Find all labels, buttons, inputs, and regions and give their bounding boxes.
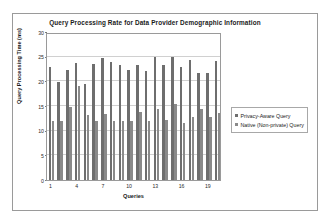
bar <box>157 109 159 180</box>
bar <box>52 121 54 180</box>
bar <box>122 121 124 180</box>
bar <box>104 114 106 180</box>
chart-figure: Query Processing Rate for Data Provider … <box>0 0 330 223</box>
bar <box>66 70 68 180</box>
bar <box>139 112 141 180</box>
bar <box>60 121 62 180</box>
legend-item: Native (Non-private) Query <box>235 120 304 129</box>
bar <box>218 113 220 180</box>
x-tick-label: 7 <box>101 183 104 189</box>
x-axis-ticks: 14710131619 <box>46 183 221 193</box>
bar <box>95 121 97 180</box>
bar <box>75 63 77 180</box>
bar <box>197 73 199 180</box>
y-tick-label: 15 <box>32 105 44 110</box>
legend-label: Native (Non-private) Query <box>241 122 304 128</box>
bar <box>119 65 121 180</box>
bars-layer <box>47 34 220 180</box>
bar <box>148 121 150 180</box>
bar <box>78 86 80 180</box>
bar <box>174 104 176 180</box>
bar <box>206 73 208 180</box>
bar <box>165 120 167 180</box>
bar <box>136 65 138 180</box>
plot-area <box>46 33 221 181</box>
bar <box>84 84 86 180</box>
x-tick-label: 10 <box>126 183 132 189</box>
bar <box>101 58 103 180</box>
x-tick-label: 19 <box>205 183 211 189</box>
chart-title: Query Processing Rate for Data Provider … <box>30 18 280 27</box>
y-tick-label: 0 <box>32 179 44 184</box>
y-tick-label: 5 <box>32 154 44 159</box>
y-tick-label: 30 <box>32 31 44 36</box>
bar <box>154 57 156 180</box>
bar <box>57 82 59 180</box>
y-tick-label: 20 <box>32 80 44 85</box>
y-axis-title: Query Processing Time (ms) <box>16 11 22 121</box>
y-tick-label: 10 <box>32 129 44 134</box>
chart-legend: Privacy-Aware QueryNative (Non-private) … <box>231 107 308 133</box>
bar <box>162 65 164 180</box>
bar <box>171 57 173 180</box>
y-axis-ticks: 051015202530 <box>30 33 44 181</box>
bar <box>127 70 129 180</box>
bar <box>49 67 51 180</box>
legend-swatch-icon <box>235 114 238 117</box>
bar <box>189 60 191 180</box>
y-tick-label: 25 <box>32 55 44 60</box>
bar <box>145 71 147 180</box>
bar <box>113 121 115 180</box>
bar <box>87 115 89 180</box>
bar <box>69 107 71 181</box>
x-tick-label: 1 <box>49 183 52 189</box>
x-tick-label: 4 <box>75 183 78 189</box>
bar <box>200 109 202 180</box>
legend-swatch-icon <box>235 123 238 126</box>
bar <box>180 67 182 180</box>
x-tick-label: 16 <box>179 183 185 189</box>
legend-item: Privacy-Aware Query <box>235 111 304 120</box>
x-axis-title: Queries <box>46 193 221 199</box>
x-tick-label: 13 <box>152 183 158 189</box>
bar <box>110 62 112 180</box>
legend-label: Privacy-Aware Query <box>241 113 291 119</box>
bar <box>92 64 94 180</box>
bar <box>130 121 132 180</box>
bar <box>192 117 194 180</box>
bar <box>183 123 185 180</box>
bar <box>215 61 217 180</box>
bar <box>209 117 211 180</box>
